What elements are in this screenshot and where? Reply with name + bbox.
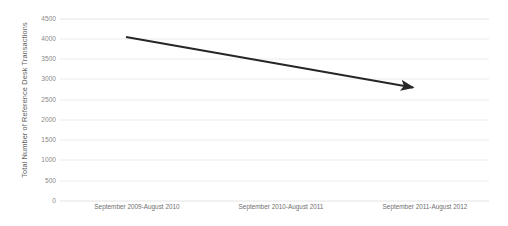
trend-arrow-line [126, 37, 413, 88]
x-axis-tick-label: September 2010-August 2011 [216, 203, 346, 210]
gridlines [60, 19, 489, 201]
x-axis-tick-label: September 2009-August 2010 [72, 203, 202, 210]
chart-plot-area [0, 0, 508, 226]
x-axis-tick-label: September 2011-August 2012 [360, 203, 490, 210]
reference-desk-transactions-chart: Total Number of Reference Desk Transacti… [0, 0, 508, 226]
